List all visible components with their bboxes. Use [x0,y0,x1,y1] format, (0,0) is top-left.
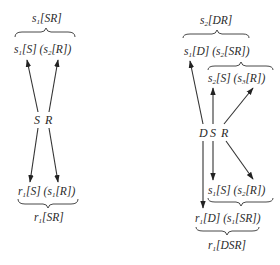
left-top-label: s1[SR] [32,12,62,26]
right-upper-parts: s1[D] (s2[SR]) [184,45,250,59]
right-bottom-label: r1[DSR] [208,239,246,253]
right-mid-upper-parts: s2[S] (s3[R]) [208,72,265,86]
left-arrow-s-down [30,128,38,182]
right-top-brace [183,30,249,38]
diagram-canvas: s1[SR] s1[S] (s2[R]) S R r1[S] (s1[R]) r… [0,0,280,265]
left-node-s: S [34,113,40,127]
right-node-d: D [198,126,208,140]
right-node-r: R [220,126,229,140]
left-upper-parts: s1[S] (s2[R]) [14,43,71,57]
right-lower-parts: r1[D] (s1[SR]) [195,212,261,226]
left-diagram: s1[SR] s1[S] (s2[R]) S R r1[S] (s1[R]) r… [14,12,78,225]
right-mid-lower-parts: s1[S] (s2[R]) [208,184,265,198]
right-top-label: s2[DR] [200,14,232,28]
right-arrow-r-down [226,141,253,179]
right-mid-upper-brace [208,62,273,70]
right-mid-lower-brace [208,198,273,206]
left-top-brace [15,28,75,37]
left-arrow-s-up [27,60,38,112]
left-node-r: R [44,113,53,127]
left-lower-parts: r1[S] (s1[R]) [18,185,75,199]
left-arrow-r-up [49,60,58,112]
left-arrow-r-down [49,128,58,182]
right-diagram: s2[DR] s1[D] (s2[SR]) s2[S] (s3[R]) D S … [183,14,273,253]
left-bottom-brace [18,199,78,208]
right-node-s: S [210,126,216,140]
right-arrow-d-up [190,61,203,124]
right-arrow-r-up [224,88,253,124]
left-bottom-label: r1[SR] [34,211,64,225]
right-bottom-brace [196,227,259,235]
